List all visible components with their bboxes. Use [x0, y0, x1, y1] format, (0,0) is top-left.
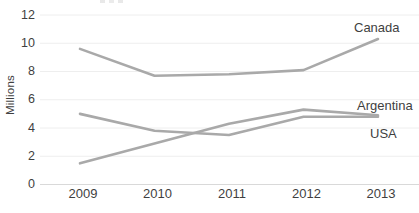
series-label-usa: USA: [370, 127, 397, 141]
series-label-argentina: Argentina: [357, 99, 413, 113]
y-tick-label-0: 0: [3, 177, 35, 192]
series-label-canada: Canada: [354, 21, 400, 35]
series-line-canada: [80, 39, 378, 76]
y-tick-label-10: 10: [3, 36, 35, 51]
x-tick-label-2010: 2010: [131, 186, 185, 201]
y-tick-label-4: 4: [3, 121, 35, 136]
y-tick-label-6: 6: [3, 92, 35, 107]
x-tick-label-2011: 2011: [205, 186, 259, 201]
y-tick-label-2: 2: [3, 149, 35, 164]
line-chart: Millions 024681012 20092010201120122013 …: [0, 0, 419, 213]
x-tick-label-2012: 2012: [280, 186, 334, 201]
x-tick-label-2013: 2013: [354, 186, 408, 201]
y-tick-label-12: 12: [3, 8, 35, 23]
x-tick-label-2009: 2009: [56, 186, 110, 201]
y-tick-label-8: 8: [3, 64, 35, 79]
